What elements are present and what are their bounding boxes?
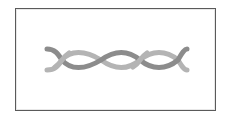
twisted-rope-icon: [0, 0, 233, 118]
